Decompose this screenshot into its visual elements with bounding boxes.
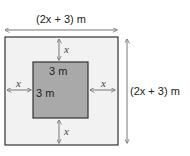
garden-path-diagram: (2x + 3) m 3 m 3 m x x x x (2x + 3) m [0, 0, 190, 156]
gap-right-label: x [100, 77, 106, 89]
right-dimension-label: (2x + 3) m [130, 85, 180, 97]
top-dimension-label: (2x + 3) m [36, 13, 86, 25]
gap-left-label: x [15, 77, 21, 89]
inner-top-label: 3 m [49, 65, 67, 77]
inner-left-label: 3 m [36, 87, 54, 99]
gap-top-label: x [63, 43, 69, 55]
gap-bottom-label: x [63, 125, 69, 137]
